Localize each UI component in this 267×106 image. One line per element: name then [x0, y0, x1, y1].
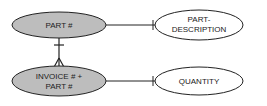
entity-invoice-part-label-2: PART #	[45, 82, 73, 91]
attribute-quantity-label: QUANTITY	[179, 77, 220, 86]
entity-part: PART #	[12, 12, 106, 38]
entity-invoice-part-label-1: INVOICE # +	[36, 72, 83, 81]
edge-part-to-invoice	[53, 38, 65, 69]
er-diagram: PART # INVOICE # + PART # PART- DESCRIPT…	[0, 0, 267, 106]
attribute-part-description: PART- DESCRIPTION	[155, 10, 243, 40]
entity-invoice-part: INVOICE # + PART #	[12, 66, 106, 96]
attribute-quantity: QUANTITY	[155, 67, 243, 95]
entity-part-label: PART #	[45, 21, 73, 30]
attribute-part-description-label-2: DESCRIPTION	[172, 25, 227, 34]
edge-invoice-to-quantity	[106, 76, 155, 86]
attribute-part-description-label-1: PART-	[188, 15, 211, 24]
edge-part-to-description	[106, 20, 155, 30]
